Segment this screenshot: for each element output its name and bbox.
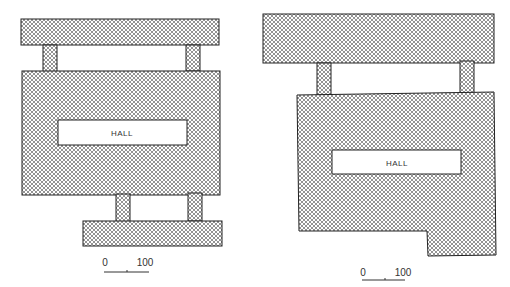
connector-bottom-right	[188, 193, 202, 221]
scale-bar: 0 100	[360, 267, 412, 280]
top-wing	[21, 19, 219, 45]
floor-plans-diagram: HALL 0 100 HALL 0 100	[0, 0, 510, 287]
scale-bar: 0 100	[102, 257, 154, 272]
scale-start: 0	[102, 257, 108, 268]
scale-end: 100	[137, 257, 154, 268]
plan-left: HALL 0 100	[21, 19, 222, 272]
connector-bottom-left	[116, 194, 130, 222]
scale-start: 0	[360, 267, 366, 278]
hall-label: HALL	[386, 159, 408, 168]
hall-label: HALL	[111, 129, 133, 138]
scale-end: 100	[395, 267, 412, 278]
connector-right	[460, 61, 474, 93]
bottom-wing	[83, 221, 222, 246]
connector-left	[317, 63, 331, 95]
plan-right: HALL 0 100	[263, 14, 496, 280]
top-wing	[263, 14, 494, 63]
connector-top-left	[43, 45, 57, 72]
connector-top-right	[186, 45, 200, 71]
